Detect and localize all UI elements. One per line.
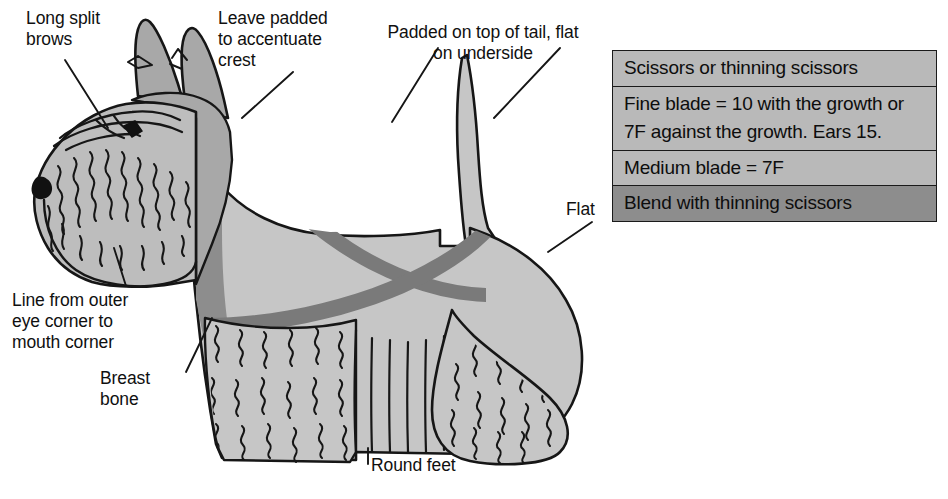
legend-row: Blend with thinning scissors	[613, 186, 936, 221]
annotation-long-split-brows: Long split brows	[26, 8, 100, 50]
legend-row: Scissors or thinning scissors	[613, 51, 936, 87]
legend-row: Fine blade = 10 with the growth or 7F ag…	[613, 87, 936, 151]
diagram-page: Long split brows Leave padded to accentu…	[0, 0, 948, 499]
annotation-breast-bone: Breast bone	[100, 368, 150, 410]
front-furnishings	[205, 318, 356, 462]
legend-row: Medium blade = 7F	[613, 151, 936, 187]
dog-head	[32, 102, 196, 286]
annotation-leave-padded-crest: Leave padded to accentuate crest	[218, 8, 328, 71]
leader-leave-padded	[242, 72, 293, 118]
annotation-padded-on-tail: Padded on top of tail, flat on underside	[378, 22, 588, 64]
annotation-flat: Flat	[566, 199, 595, 220]
leader-flat	[548, 222, 592, 252]
leader-long-split-brows	[65, 60, 108, 128]
dog-tail	[457, 55, 500, 246]
annotation-round-feet: Round feet	[371, 455, 456, 476]
annotation-eye-corner-to-mouth-corner: Line from outer eye corner to mouth corn…	[12, 290, 128, 353]
grooming-legend-table: Scissors or thinning scissors Fine blade…	[612, 50, 937, 222]
